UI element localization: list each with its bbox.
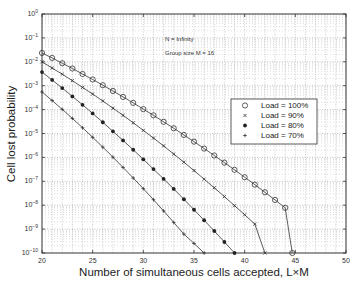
data-series <box>39 50 294 255</box>
legend-label: Load = 90% <box>261 111 304 120</box>
legend: Load = 100%Load = 90%Load = 80%Load = 70… <box>231 99 317 144</box>
x-tick-label: 50 <box>342 257 350 264</box>
y-tick-label: 10−9 <box>25 223 39 232</box>
x-tick-label: 35 <box>190 257 198 264</box>
y-tick-label: 10−2 <box>25 56 39 65</box>
y-axis-label: Cell lost probability <box>5 85 17 182</box>
x-tick-label: 30 <box>139 257 147 264</box>
legend-label: Load = 70% <box>261 131 304 140</box>
y-tick-label: 10−6 <box>25 151 39 160</box>
y-tick-label: 10−5 <box>25 128 39 137</box>
chart: 20253035404550 10010−110−210−310−410−510… <box>0 0 358 286</box>
annotation-group-size: Group size M = 16 <box>165 50 215 56</box>
legend-label: Load = 80% <box>261 121 304 130</box>
y-tick-label: 10−1 <box>25 32 39 41</box>
x-tick-label: 40 <box>241 257 249 264</box>
x-axis-label: Number of simultaneous cells accepted, L… <box>79 266 309 278</box>
annotation-n: N = Infinity <box>165 36 194 42</box>
y-tick-label: 10−8 <box>25 199 39 208</box>
x-tick-label: 20 <box>38 257 46 264</box>
x-tick-label: 45 <box>291 257 299 264</box>
legend-label: Load = 100% <box>261 101 308 110</box>
y-tick-label: 10−4 <box>25 104 39 113</box>
y-tick-label: 10−7 <box>25 175 39 184</box>
y-tick-label: 100 <box>27 8 38 17</box>
x-tick-label: 25 <box>89 257 97 264</box>
y-tick-label: 10−3 <box>25 80 39 89</box>
y-tick-label: 10−10 <box>22 247 38 256</box>
series-100-percent <box>39 50 294 255</box>
